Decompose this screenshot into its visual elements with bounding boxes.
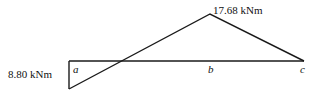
max-positive-moment-label: 17.68 kNm xyxy=(213,4,263,16)
point-c-label: c xyxy=(300,63,305,75)
moment-curve xyxy=(69,14,304,89)
point-b-label: b xyxy=(208,63,214,75)
max-negative-moment-label: 8.80 kNm xyxy=(8,68,52,80)
bending-moment-diagram xyxy=(0,0,322,99)
point-a-label: a xyxy=(73,63,79,75)
